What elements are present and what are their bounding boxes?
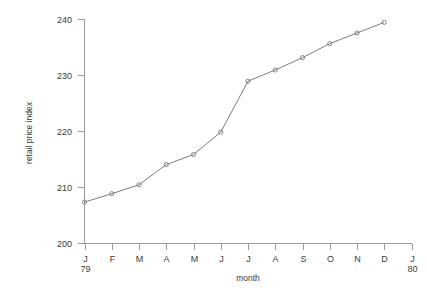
chart-background <box>0 0 427 294</box>
y-tick-label: 230 <box>57 71 72 81</box>
y-tick-label: 240 <box>57 15 72 25</box>
y-tick-label: 210 <box>57 183 72 193</box>
x-tick-label: S <box>300 254 306 264</box>
x-tick-sublabel: 80 <box>407 264 417 274</box>
retail-price-index-chart: 200210220230240 JFMAMJJASONDJ 7980 month… <box>0 0 427 294</box>
x-tick-label: N <box>354 254 361 264</box>
y-tick-label: 220 <box>57 127 72 137</box>
x-tick-label: A <box>272 254 278 264</box>
x-axis-title: month <box>236 273 260 283</box>
x-tick-sublabel: 79 <box>80 264 90 274</box>
x-tick-label: M <box>136 254 144 264</box>
x-tick-label: F <box>110 254 116 264</box>
x-tick-label: J <box>246 254 251 264</box>
chart-canvas: 200210220230240 JFMAMJJASONDJ 7980 month… <box>0 0 427 294</box>
x-tick-label: A <box>163 254 169 264</box>
y-tick-label: 200 <box>57 239 72 249</box>
x-tick-label: O <box>327 254 334 264</box>
y-axis-title: retail price index <box>24 101 34 164</box>
x-tick-label: J <box>410 254 415 264</box>
x-tick-label: J <box>83 254 88 264</box>
x-tick-label: M <box>191 254 199 264</box>
x-tick-label: J <box>219 254 224 264</box>
x-tick-label: D <box>381 254 388 264</box>
